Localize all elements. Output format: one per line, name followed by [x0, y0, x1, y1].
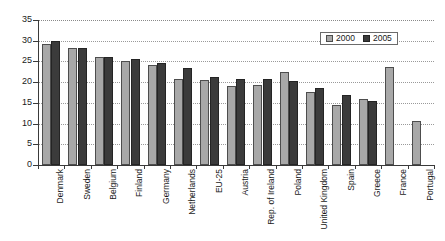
x-axis-label: Poland [293, 169, 303, 195]
y-axis-tick-label: 35 [6, 15, 32, 24]
x-axis-label: Sweden [82, 169, 92, 200]
legend-label-2005: 2005 [373, 34, 392, 43]
bar-belgium-2000 [95, 57, 104, 165]
y-axis-tick-label: 25 [6, 56, 32, 65]
x-axis-label: United Kingdom [319, 169, 329, 229]
bar-rep-of-ireland-2000 [253, 85, 262, 165]
chart-legend: 2000 2005 [320, 32, 398, 45]
bar-united-kingdom-2000 [306, 92, 315, 165]
bar-spain-2000 [332, 105, 341, 165]
bar-netherlands-2005 [183, 68, 192, 165]
x-axis-label: Portugal [425, 169, 435, 201]
bar-germany-2005 [157, 63, 166, 165]
x-axis-labels: DenmarkSwedenBelgiumFinlandGermanyNether… [38, 169, 434, 241]
bar-rep-of-ireland-2005 [263, 79, 272, 165]
legend-item-2005: 2005 [363, 34, 392, 43]
x-axis-label: Rep. of Ireland [266, 169, 276, 225]
bar-denmark-2000 [42, 44, 51, 165]
bar-sweden-2000 [68, 48, 77, 165]
bar-spain-2005 [342, 95, 351, 165]
legend-swatch-2005-icon [363, 35, 370, 42]
x-axis-label: Germany [161, 169, 171, 204]
bar-france-2000 [385, 67, 394, 165]
bar-eu-25-2005 [210, 77, 219, 165]
x-axis-label: Finland [134, 169, 144, 197]
bar-chart: 35302520151050 DenmarkSwedenBelgiumFinla… [0, 0, 445, 241]
x-axis-label: Netherlands [187, 169, 197, 215]
x-axis-line [38, 165, 434, 166]
x-axis-label: France [398, 169, 408, 195]
bar-germany-2000 [148, 65, 157, 165]
gridline [38, 20, 434, 21]
bar-poland-2005 [289, 81, 298, 166]
x-axis-label: EU-25 [214, 169, 224, 193]
y-axis-tick-label: 5 [6, 139, 32, 148]
y-axis-tick-label: 30 [6, 36, 32, 45]
x-axis-label: Spain [346, 169, 356, 191]
x-axis-label: Greece [372, 169, 382, 197]
legend-label-2000: 2000 [336, 34, 355, 43]
bar-denmark-2005 [51, 41, 60, 165]
legend-item-2000: 2000 [326, 34, 355, 43]
bar-poland-2000 [280, 72, 289, 165]
bar-eu-25-2000 [200, 80, 209, 165]
bar-finland-2000 [121, 61, 130, 165]
bar-greece-2000 [359, 99, 368, 165]
bar-belgium-2005 [104, 57, 113, 165]
legend-swatch-2000-icon [326, 35, 333, 42]
y-axis-tick-label: 10 [6, 119, 32, 128]
bar-finland-2005 [131, 59, 140, 165]
bar-austria-2005 [236, 79, 245, 165]
bar-greece-2005 [368, 101, 377, 165]
y-axis-tick-label: 0 [6, 160, 32, 169]
y-axis-line [38, 20, 39, 165]
y-axis-tick-label: 20 [6, 77, 32, 86]
y-axis-tick-label: 15 [6, 98, 32, 107]
x-axis-label: Austria [240, 169, 250, 195]
bar-sweden-2005 [78, 48, 87, 165]
bar-netherlands-2000 [174, 79, 183, 165]
x-axis-label: Belgium [108, 169, 118, 200]
bar-united-kingdom-2005 [315, 88, 324, 165]
bar-portugal-2000 [412, 121, 421, 165]
x-axis-label: Denmark [55, 169, 65, 203]
bar-austria-2000 [227, 86, 236, 165]
y-axis-labels: 35302520151050 [0, 0, 32, 241]
